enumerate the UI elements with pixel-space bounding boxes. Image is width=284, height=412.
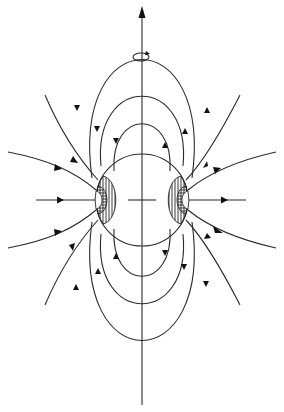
left-field-lines xyxy=(8,95,98,305)
lower-field-loops xyxy=(73,222,209,341)
rotation-axis xyxy=(139,6,146,405)
right-field-lines xyxy=(186,95,276,305)
field-diagram xyxy=(0,0,284,412)
left-hatched-region xyxy=(95,176,116,224)
right-hatched-region xyxy=(168,176,189,224)
